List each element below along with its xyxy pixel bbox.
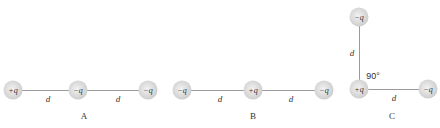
angle-label: 90° <box>366 71 380 81</box>
connector-line-vertical <box>359 17 360 89</box>
charge-negative: −q <box>173 81 192 100</box>
distance-label: d <box>46 94 51 104</box>
configuration-label: B <box>250 111 256 121</box>
charge-positive: +q <box>4 81 23 100</box>
charge-positive: +q <box>350 80 369 99</box>
charge-negative: −q <box>69 81 88 100</box>
distance-label: d <box>289 94 294 104</box>
distance-label: d <box>218 94 223 104</box>
charge-positive: +q <box>244 81 263 100</box>
configuration-label: A <box>81 111 88 121</box>
charge-configurations-diagram: +q −q −q d d A −q +q −q d d B −q +q −q d… <box>0 0 440 128</box>
charge-negative: −q <box>350 8 369 27</box>
charge-negative: −q <box>139 81 158 100</box>
distance-label: d <box>392 93 397 103</box>
charge-negative: −q <box>419 80 438 99</box>
distance-label: d <box>116 94 121 104</box>
distance-label: d <box>350 48 355 58</box>
configuration-label: C <box>389 111 395 121</box>
charge-negative: −q <box>315 81 334 100</box>
